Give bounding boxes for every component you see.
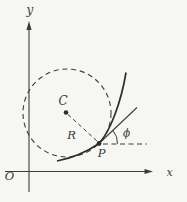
x-axis-label: x [166,166,173,179]
y-axis-label: y [26,3,34,17]
center-label: C [58,94,67,108]
center-dot [64,110,69,115]
curvature-diagram: y x O C R P ϕ [0,0,187,202]
point-label: P [97,146,106,160]
origin-label: O [5,169,15,183]
diagram-canvas: y x O C R P ϕ [0,0,187,202]
angle-label: ϕ [123,127,130,139]
radius-label: R [66,128,76,142]
